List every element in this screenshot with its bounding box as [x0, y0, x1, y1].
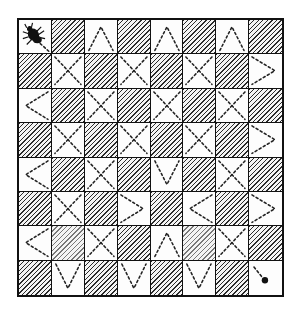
light-square-x-path — [151, 89, 184, 123]
start-square — [19, 20, 52, 54]
light-square-x-path — [118, 123, 151, 157]
light-square-x-path — [118, 54, 151, 88]
light-square-chevron-right-path — [249, 192, 282, 226]
hatched-square — [118, 89, 151, 123]
end-square — [249, 261, 282, 295]
light-square-caret-down-path — [52, 261, 85, 295]
light-square-caret-down-path — [183, 261, 216, 295]
hatched-square — [85, 123, 118, 157]
hatched-square — [19, 123, 52, 157]
hatched-square — [118, 158, 151, 192]
light-square-chevron-left-path — [19, 226, 52, 260]
light-square-caret-up-path — [216, 20, 249, 54]
light-square-x-path — [183, 54, 216, 88]
bug-icon — [23, 23, 45, 45]
light-square-x-path — [52, 123, 85, 157]
hatched-square — [151, 192, 184, 226]
hatched-square — [249, 89, 282, 123]
hatched-square — [85, 54, 118, 88]
light-square-x-path — [52, 192, 85, 226]
checkerboard — [17, 18, 284, 297]
hatched-square — [183, 158, 216, 192]
light-square-chevron-right-path — [249, 123, 282, 157]
hatched-square — [19, 261, 52, 295]
hatched-square — [52, 89, 85, 123]
hatched-square — [151, 261, 184, 295]
light-square-x-path — [216, 89, 249, 123]
light-square-x-path — [85, 226, 118, 260]
light-square-caret-up-path — [85, 20, 118, 54]
hatched-square — [19, 192, 52, 226]
light-square-x-path — [216, 226, 249, 260]
dot-icon — [262, 277, 268, 283]
light-square-caret-up-path — [151, 226, 184, 260]
hatched-square — [216, 261, 249, 295]
hatched-square — [19, 54, 52, 88]
hatched-square — [249, 226, 282, 260]
light-square-chevron-left-path — [183, 192, 216, 226]
hatched-square — [183, 20, 216, 54]
light-square-x-path — [183, 123, 216, 157]
hatched-square — [216, 123, 249, 157]
light-square-x-path — [85, 158, 118, 192]
light-square-caret-down-path — [118, 261, 151, 295]
hatched-square — [52, 226, 85, 260]
hatched-square — [151, 123, 184, 157]
hatched-square — [118, 20, 151, 54]
light-square-x-path — [216, 158, 249, 192]
hatched-square — [151, 54, 184, 88]
hatched-square — [216, 54, 249, 88]
light-square-caret-up-path — [151, 20, 184, 54]
hatched-square — [249, 158, 282, 192]
light-square-chevron-right-path — [118, 192, 151, 226]
light-square-caret-down-path — [151, 158, 184, 192]
hatched-square — [52, 158, 85, 192]
hatched-square — [85, 192, 118, 226]
hatched-square — [183, 89, 216, 123]
light-square-x-path — [52, 54, 85, 88]
hatched-square — [183, 226, 216, 260]
hatched-square — [216, 192, 249, 226]
light-square-chevron-right-path — [249, 54, 282, 88]
hatched-square — [52, 20, 85, 54]
light-square-x-path — [85, 89, 118, 123]
light-square-chevron-left-path — [19, 89, 52, 123]
hatched-square — [85, 261, 118, 295]
hatched-square — [249, 20, 282, 54]
hatched-square — [118, 226, 151, 260]
light-square-chevron-left-path — [19, 158, 52, 192]
